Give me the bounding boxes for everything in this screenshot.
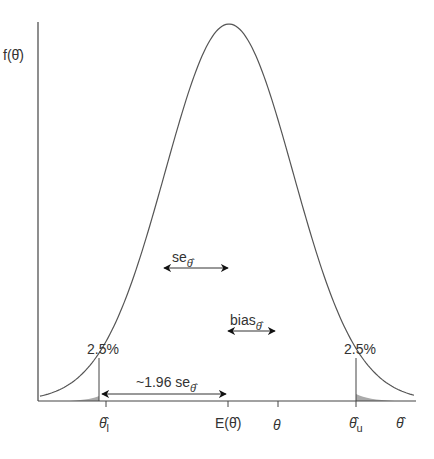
se-label: seθ̂ bbox=[172, 249, 195, 269]
left-tail-shade bbox=[70, 396, 99, 401]
theta-u-label: θ̂u bbox=[349, 415, 363, 434]
e-theta-label: E(θ̂) bbox=[215, 415, 241, 431]
ci-label: ~1.96 seθ̂ bbox=[136, 374, 198, 394]
right-tail-shade bbox=[356, 394, 395, 401]
bias-label: biasθ̂ bbox=[230, 312, 264, 332]
theta-label: θ bbox=[273, 417, 281, 433]
theta-l-label: θ̂l bbox=[99, 415, 110, 434]
left-tail-label: 2.5% bbox=[87, 341, 119, 357]
y-axis-label: f(θ̂) bbox=[3, 47, 24, 63]
sampling-distribution-diagram: f(θ̂) θ̂ seθ̂ biasθ̂ ~1.96 seθ̂ 2.5% 2.5… bbox=[0, 0, 434, 459]
x-axis-label: θ̂ bbox=[396, 415, 407, 431]
right-tail-label: 2.5% bbox=[344, 341, 376, 357]
